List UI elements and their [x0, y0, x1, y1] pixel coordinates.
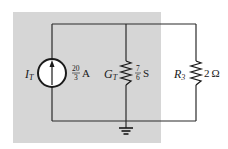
svg-text:3: 3 — [74, 73, 78, 82]
svg-text:20: 20 — [72, 64, 80, 73]
gt-resistor-zigzag — [121, 61, 131, 85]
ground-icon — [119, 128, 133, 134]
gt-value-fraction: 7 6 S — [135, 64, 149, 82]
circuit-diagram: IT 20 3 A GT 7 6 S R3 2Ω — [0, 0, 228, 149]
gt-symbol-label: GT — [104, 67, 118, 82]
r3-symbol-label: R3 — [173, 67, 185, 82]
source-value-fraction: 20 3 A — [72, 64, 90, 82]
source-symbol-label: IT — [24, 67, 34, 82]
svg-text:6: 6 — [136, 73, 140, 82]
svg-text:S: S — [143, 67, 149, 79]
svg-text:7: 7 — [136, 64, 140, 73]
r3-value-label: 2Ω — [204, 67, 220, 79]
current-source — [38, 59, 66, 87]
svg-text:A: A — [82, 67, 90, 79]
r3-resistor-zigzag — [191, 61, 201, 85]
